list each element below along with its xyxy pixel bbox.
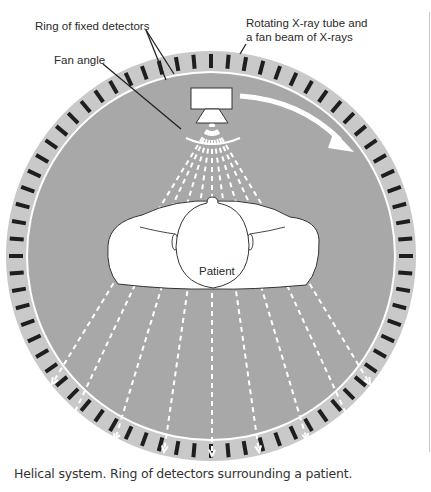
page-edge-line xyxy=(429,12,430,452)
ct-diagram: Ring of fixed detectors Rotating X-ray t… xyxy=(0,0,431,492)
xray-tube xyxy=(191,88,232,109)
ct-scanner-illustration xyxy=(0,0,431,492)
label-ring-of-detectors: Ring of fixed detectors xyxy=(35,19,149,33)
label-fan-angle: Fan angle xyxy=(54,53,105,67)
label-xray-tube-line1: Rotating X-ray tube and xyxy=(246,16,367,30)
label-patient: Patient xyxy=(199,264,235,278)
label-xray-tube-line2: a fan beam of X-rays xyxy=(246,30,353,44)
figure-caption: Helical system. Ring of detectors surrou… xyxy=(14,466,352,481)
